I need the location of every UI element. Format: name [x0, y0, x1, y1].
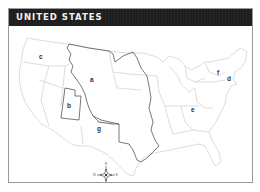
label-f: f: [217, 69, 220, 76]
map-frame: UNITED STATES: [8, 8, 253, 183]
label-d: d: [227, 75, 231, 82]
utah-outline: [61, 88, 81, 120]
map-header: UNITED STATES: [9, 9, 252, 26]
compass-rose-icon: N S E W: [93, 162, 118, 182]
label-c: c: [39, 53, 43, 60]
us-map: a b c d e f g N S E W: [9, 26, 252, 182]
compass-w: W: [93, 173, 96, 177]
label-e: e: [191, 106, 195, 113]
map-title: UNITED STATES: [16, 12, 103, 23]
us-outline: [19, 38, 247, 176]
label-g: g: [97, 125, 101, 133]
louisiana-purchase-border: [69, 44, 159, 150]
label-a: a: [90, 76, 94, 83]
label-b: b: [67, 102, 71, 109]
compass-n: N: [105, 162, 107, 166]
compass-e: E: [116, 173, 118, 177]
